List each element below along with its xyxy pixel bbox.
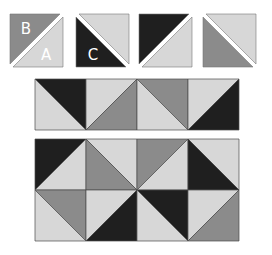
label-c: C (88, 46, 98, 64)
grid-square-r2-c3 (137, 190, 188, 241)
hst-unit-1: BA (10, 14, 63, 67)
hst-unit-2: C (76, 14, 129, 67)
grid-square-r1-c2 (86, 139, 137, 190)
half-square-triangle-units: BAC (10, 14, 256, 67)
label-b: B (21, 20, 31, 38)
strip-square-1 (35, 79, 86, 130)
strip-square-3 (137, 79, 188, 130)
grid-square-r1-c4 (188, 139, 239, 190)
grid-square-r1-c1 (35, 139, 86, 190)
grid-square-r1-c3 (137, 139, 188, 190)
hst-unit-3 (139, 14, 192, 67)
label-a: A (41, 46, 52, 64)
strip-square-2 (86, 79, 137, 130)
grid-square-r2-c2 (86, 190, 137, 241)
quilt-diagram: BAC (0, 0, 272, 255)
grid-square-r2-c1 (35, 190, 86, 241)
pieced-block-grid (35, 139, 239, 241)
pieced-strip-row (35, 79, 239, 130)
hst-unit-4 (203, 14, 256, 67)
grid-square-r2-c4 (188, 190, 239, 241)
strip-square-4 (188, 79, 239, 130)
